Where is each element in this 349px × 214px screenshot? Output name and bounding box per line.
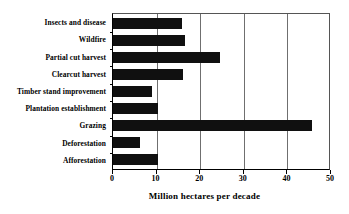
bar bbox=[113, 18, 182, 29]
x-axis-tick-labels: 0 10 20 30 40 50 bbox=[0, 174, 349, 188]
y-axis-tick bbox=[110, 136, 113, 137]
x-axis-title: Million hectares per decade bbox=[0, 191, 349, 201]
bar-row bbox=[113, 137, 329, 148]
x-tick-label: 30 bbox=[239, 174, 247, 183]
category-label: Insects and disease bbox=[0, 17, 110, 28]
plot-area bbox=[112, 13, 330, 170]
x-axis-title-text: Million hectares per decade bbox=[89, 191, 260, 201]
bar bbox=[113, 120, 312, 131]
bar-rows bbox=[113, 14, 329, 169]
bar bbox=[113, 154, 158, 165]
y-axis-tick bbox=[110, 66, 113, 67]
x-tick-label: 0 bbox=[110, 174, 114, 183]
x-tick-label: 50 bbox=[326, 174, 334, 183]
bar-row bbox=[113, 35, 329, 46]
bar bbox=[113, 35, 185, 46]
bar-row bbox=[113, 103, 329, 114]
category-label: Clearcut harvest bbox=[0, 69, 110, 80]
category-label: Plantation establishment bbox=[0, 103, 110, 114]
x-tick-label: 10 bbox=[152, 174, 160, 183]
bar-row bbox=[113, 69, 329, 80]
bar-row bbox=[113, 86, 329, 97]
y-axis-tick bbox=[110, 101, 113, 102]
x-tick-label: 20 bbox=[195, 174, 203, 183]
category-label: Timber stand improvement bbox=[0, 86, 110, 97]
category-label: Deforestation bbox=[0, 138, 110, 149]
bar bbox=[113, 52, 220, 63]
bar-row bbox=[113, 120, 329, 131]
bar-chart: Insects and disease Wildfire Partial cut… bbox=[0, 0, 349, 214]
category-label: Partial cut harvest bbox=[0, 52, 110, 63]
category-label: Grazing bbox=[0, 120, 110, 131]
y-axis-tick bbox=[110, 84, 113, 85]
bar-row bbox=[113, 52, 329, 63]
y-axis-tick bbox=[110, 118, 113, 119]
bar bbox=[113, 103, 158, 114]
y-axis-tick bbox=[110, 49, 113, 50]
category-label: Wildfire bbox=[0, 34, 110, 45]
bar-row bbox=[113, 18, 329, 29]
x-tick-label: 40 bbox=[282, 174, 290, 183]
y-axis-tick bbox=[110, 32, 113, 33]
y-axis-tick bbox=[110, 153, 113, 154]
bar bbox=[113, 86, 152, 97]
category-label: Afforestation bbox=[0, 155, 110, 166]
bar bbox=[113, 69, 183, 80]
category-axis-labels: Insects and disease Wildfire Partial cut… bbox=[0, 13, 110, 170]
bar bbox=[113, 137, 140, 148]
bar-row bbox=[113, 154, 329, 165]
